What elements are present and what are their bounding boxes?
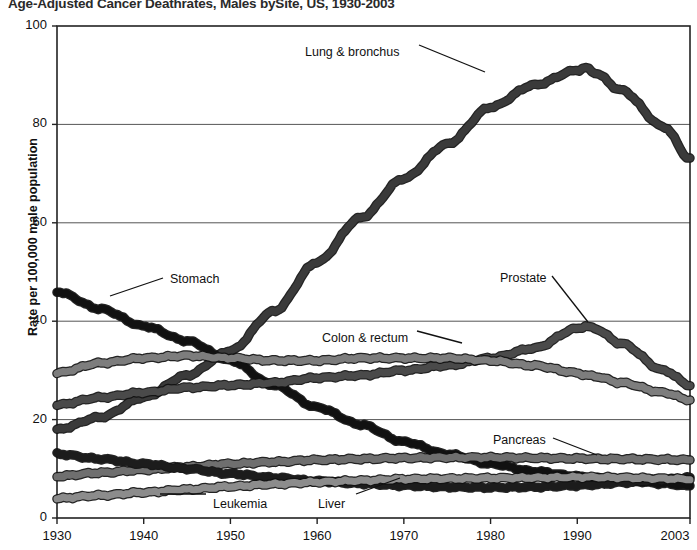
chart-svg (0, 0, 697, 550)
leader-line-0 (419, 45, 485, 72)
series-label-leukemia: Leukemia (213, 497, 267, 511)
x-axis-tick-label: 2003 (645, 528, 697, 543)
y-axis-tick-label: 40 (7, 312, 47, 327)
series-label-stomach: Stomach (170, 272, 219, 286)
y-axis-tick-label: 20 (7, 411, 47, 426)
x-axis-tick-label: 1990 (547, 528, 607, 543)
y-axis-tick-label: 60 (7, 214, 47, 229)
chart-plot-area (0, 0, 697, 550)
x-axis-tick-label: 1980 (461, 528, 521, 543)
x-axis-tick-label: 1970 (374, 528, 434, 543)
x-axis-tick-label: 1930 (27, 528, 87, 543)
x-axis-tick-label: 1950 (200, 528, 260, 543)
leader-line-2 (552, 276, 588, 322)
plot-frame (57, 26, 690, 518)
leader-line-3 (417, 331, 462, 343)
leader-line-1 (110, 278, 163, 296)
y-axis-tick-label: 100 (7, 17, 47, 32)
x-axis-tick-label: 1940 (114, 528, 174, 543)
leader-line-4 (553, 438, 597, 455)
y-axis-tick-label: 80 (7, 115, 47, 130)
series-label-pancreas: Pancreas (493, 433, 546, 447)
series-label-prostate: Prostate (500, 271, 547, 285)
series-label-liver: Liver (318, 497, 345, 511)
series-label-lung-bronchus: Lung & bronchus (305, 45, 400, 59)
x-axis-tick-label: 1960 (287, 528, 347, 543)
series-group (57, 68, 690, 499)
series-label-colon-rectum: Colon & rectum (322, 331, 408, 345)
y-axis-tick-label: 0 (7, 509, 47, 524)
